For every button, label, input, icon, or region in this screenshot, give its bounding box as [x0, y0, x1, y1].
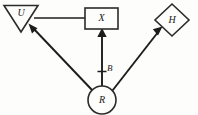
- edge-r-to-h: [113, 32, 159, 91]
- diagram-canvas: U X H R B: [0, 0, 198, 115]
- edge-r-to-u: [33, 28, 93, 91]
- edge-label-b: B: [107, 63, 113, 73]
- node-r[interactable]: R: [88, 86, 116, 114]
- node-x[interactable]: X: [85, 8, 118, 29]
- arrowhead-to-h: [153, 27, 163, 36]
- node-layer: U X H R: [4, 4, 189, 114]
- edge-label-layer: B: [107, 63, 113, 73]
- node-x-label: X: [97, 12, 105, 23]
- node-r-label: R: [98, 94, 105, 105]
- node-h-label: H: [167, 14, 176, 25]
- path-diagram-figure: U X H R B: [0, 0, 198, 115]
- node-u-label: U: [17, 7, 25, 18]
